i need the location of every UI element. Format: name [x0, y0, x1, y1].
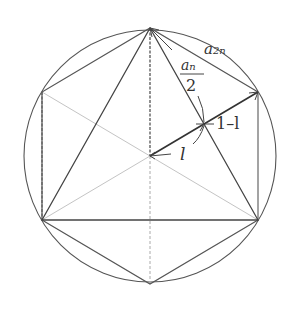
- label-an-half: an 2: [180, 57, 204, 95]
- geometry-diagram: a2n an 2 1–l l: [0, 0, 298, 309]
- label-a2n: a2n: [204, 40, 226, 58]
- label-one-minus-l: 1–l: [216, 114, 239, 133]
- svg-text:an: an: [181, 57, 196, 73]
- svg-text:2: 2: [186, 76, 196, 95]
- svg-text:a2n: a2n: [204, 40, 226, 58]
- label-l: l: [180, 144, 185, 164]
